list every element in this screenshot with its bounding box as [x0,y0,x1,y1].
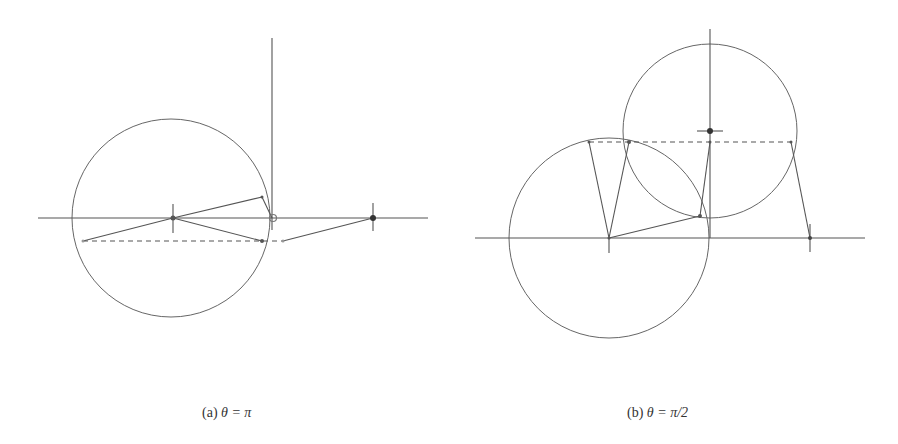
link-center-to-intersection [609,142,629,238]
left-chord-point [588,141,591,144]
right-chord-point [790,141,793,144]
caption-b-label: (b) [627,405,643,420]
link-center-to-upper [173,197,262,218]
lower-point [260,239,264,243]
caption-b: (b) θ = π/2 [627,405,688,421]
caption-a-label: (a) [202,405,218,420]
link-left-chord-to-center [589,142,609,238]
link-left-to-center [83,218,173,241]
figure-canvas [0,0,898,444]
upper-center-point [707,128,713,134]
link-center-to-lower [173,218,262,241]
link-right-chord-to-right-point [791,142,810,238]
link-grey-to-right [283,218,373,241]
axis-chord-point [709,141,712,144]
subfigure-b-diagram [475,29,865,338]
intersection-point [627,140,631,144]
link-center-to-lower-intersection [609,216,700,238]
right-axis-point [808,236,812,240]
lower-intersection-point [698,214,702,218]
left-point [82,240,85,243]
subfigure-a-diagram [38,38,428,317]
caption-b-math: θ = π/2 [647,405,688,420]
caption-a: (a) θ = π [202,405,251,421]
upper-point [261,196,264,199]
grey-point [282,240,285,243]
caption-a-math: θ = π [221,405,251,420]
center-point [171,216,176,221]
link-lower-intersection-to-axis-point [700,142,710,216]
right-point [370,215,376,221]
lower-center-point [608,237,611,240]
